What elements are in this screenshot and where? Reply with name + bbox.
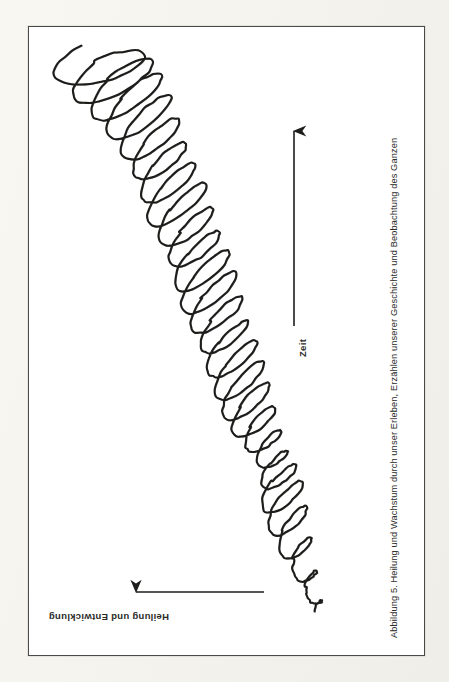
figure-frame: Zeit Heilung und Entwicklung xyxy=(28,26,425,656)
helix-stroke xyxy=(53,46,322,612)
time-axis-label: Zeit xyxy=(297,339,308,357)
figure-drawing-canvas xyxy=(29,27,426,657)
spiral-diagram-svg xyxy=(29,27,426,657)
growth-axis-label: Heilung und Entwicklung xyxy=(49,612,169,623)
helix-spiral-drawing xyxy=(53,46,322,612)
figure-caption: Abbildung 5. Heilung und Wachstum durch … xyxy=(389,138,399,638)
